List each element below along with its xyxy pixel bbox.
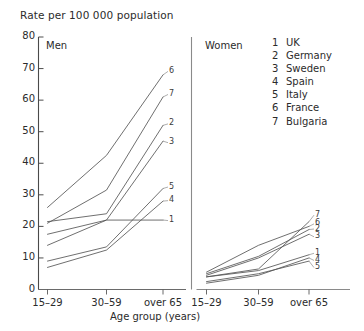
- figure-container: Rate per 100 000 population Men Women 1U…: [0, 0, 364, 331]
- series-line: [48, 97, 164, 223]
- series-line: [48, 201, 164, 267]
- plot-canvas: [0, 0, 364, 331]
- series-line: [48, 125, 164, 221]
- series-line: [48, 75, 164, 208]
- series-line: [48, 220, 164, 245]
